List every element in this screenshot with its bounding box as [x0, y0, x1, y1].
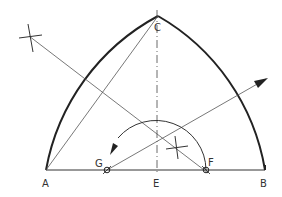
chord-a-c — [46, 16, 158, 170]
label-a: A — [42, 178, 49, 189]
label-b: B — [260, 178, 267, 189]
label-c: C — [154, 22, 161, 33]
arch-construction-diagram: A B C E F G — [0, 0, 282, 197]
label-e: E — [153, 178, 159, 189]
label-g: G — [95, 158, 103, 169]
diagram-canvas: A B C E F G — [0, 0, 282, 197]
bisector-line — [29, 36, 208, 173]
arrowhead-on-arc — [254, 78, 268, 88]
arrowhead-near-g — [110, 143, 118, 155]
arc-f-to-g — [118, 120, 206, 170]
label-f: F — [208, 157, 214, 168]
